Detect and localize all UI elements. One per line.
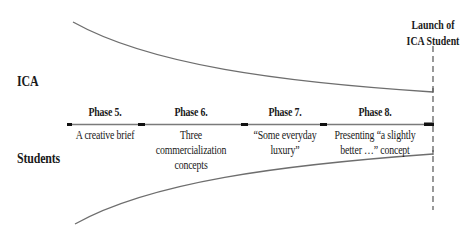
phase-8-desc-line: better …” concept (334, 143, 415, 158)
timeline-tick (320, 123, 327, 126)
timeline-tick (138, 123, 145, 126)
phase-6-title: Phase 6. (174, 105, 207, 120)
students-curve (75, 154, 433, 224)
phase-6-desc-line: commercialization (156, 143, 226, 158)
timeline-tick (424, 123, 434, 127)
phase-6-description: Three commercialization concepts (156, 128, 226, 173)
phase-6-desc-line: concepts (156, 158, 226, 173)
ica-label: ICA (17, 74, 38, 90)
phase-7-desc-line: “Some everyday (253, 128, 316, 143)
phase-5-title: Phase 5. (88, 105, 121, 120)
phase-5-description: A creative brief (76, 128, 135, 143)
phase-5-desc-line: A creative brief (76, 128, 135, 143)
ica-curve (73, 22, 433, 92)
phase-6-desc-line: Three (156, 128, 226, 143)
phase-8-description: Presenting “a slightly better …” concept (334, 128, 415, 158)
phase-7-title: Phase 7. (268, 105, 301, 120)
phase-8-desc-line: Presenting “a slightly (334, 128, 415, 143)
phase-8-title: Phase 8. (358, 105, 391, 120)
phase-7-desc-line: luxury” (253, 143, 316, 158)
launch-label-line2: ICA Student (407, 33, 460, 49)
launch-label: Launch of ICA Student (407, 17, 460, 49)
timeline-tick (67, 123, 72, 126)
phase-7-description: “Some everyday luxury” (253, 128, 316, 158)
timeline-tick (241, 123, 248, 126)
launch-label-line1: Launch of (407, 17, 460, 33)
funnel-diagram (0, 0, 468, 235)
students-label: Students (17, 151, 60, 167)
